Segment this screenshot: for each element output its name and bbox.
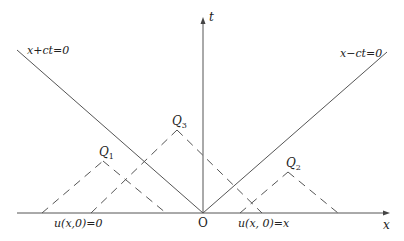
characteristics-diagram: t x O x+ct=0 x−ct=0 Q1 Q3 Q2 u(x,0)=0 u(…	[0, 0, 404, 241]
q3-domain-of-dependence	[91, 130, 262, 213]
x-axis-arrow-icon	[383, 211, 390, 216]
q2-domain-of-dependence	[240, 172, 338, 213]
origin-label: O	[198, 216, 208, 230]
label-x-minus-ct: x−ct=0	[340, 47, 382, 60]
diagram-svg	[0, 0, 404, 241]
t-axis-label: t	[209, 10, 214, 24]
t-axis-arrow-icon	[201, 17, 206, 24]
label-x-plus-ct: x+ct=0	[27, 44, 69, 57]
initial-condition-left-label: u(x,0)=0	[54, 217, 103, 230]
q1-domain-of-dependence	[42, 161, 166, 213]
initial-condition-right-label: u(x, 0)=x	[238, 217, 289, 230]
point-q2-label: Q2	[286, 156, 301, 172]
point-q3-label: Q3	[172, 114, 187, 130]
x-axis-label: x	[383, 218, 390, 232]
characteristic-line-x-minus-ct	[203, 52, 387, 213]
point-q1-label: Q1	[99, 145, 114, 161]
